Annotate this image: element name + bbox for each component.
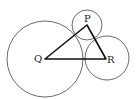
label-r: R [107, 54, 115, 65]
geometry-diagram: P Q R [0, 0, 138, 99]
triangle-pqr [45, 25, 106, 59]
label-q: Q [34, 53, 42, 64]
label-p: P [84, 13, 91, 24]
